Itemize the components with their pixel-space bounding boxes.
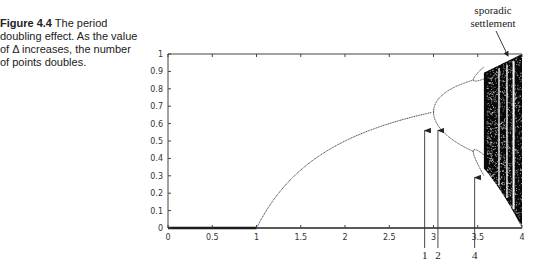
sporadic-arrow (496, 31, 508, 56)
y-tick-label: 0.1 (150, 207, 163, 216)
y-tick-label: 0.8 (150, 85, 163, 94)
period2-lower-curve (434, 112, 473, 151)
x-tick-label: 1 (254, 233, 259, 242)
arrow-2-label: 2 (435, 249, 441, 261)
period4-upper-b (473, 79, 484, 81)
x-tick-label: 1.5 (294, 233, 307, 242)
axes: 00.511.522.533.5400.10.20.30.40.50.60.70… (150, 50, 524, 242)
y-tick-label: 0.6 (150, 120, 163, 129)
y-tick-label: 0.5 (150, 137, 163, 146)
y-tick-label: 0.4 (150, 154, 163, 163)
x-tick-label: 3 (431, 233, 436, 242)
y-tick-label: 0.7 (150, 102, 163, 111)
x-tick-label: 2.5 (383, 233, 396, 242)
bifurcation-chart: 00.511.522.533.5400.10.20.30.40.50.60.70… (0, 0, 544, 269)
sporadic-label-2: settlement (470, 17, 515, 29)
period4-upper-a (473, 67, 484, 80)
x-tick-label: 0 (165, 233, 170, 242)
y-tick-label: 0.9 (150, 67, 163, 76)
plot-area (168, 54, 523, 228)
x-tick-label: 0.5 (206, 233, 219, 242)
period4-lower-b (473, 151, 484, 175)
y-tick-label: 1 (158, 50, 163, 59)
x-tick-label: 4 (519, 233, 524, 242)
arrow-1-label: 1 (422, 249, 428, 261)
arrow-4-label: 4 (472, 249, 478, 261)
x-tick-label: 2 (342, 233, 347, 242)
y-tick-label: 0 (158, 224, 163, 233)
x-tick-label: 3.5 (471, 233, 484, 242)
fixed-point-curve (257, 112, 432, 228)
sporadic-label-1: sporadic (474, 4, 511, 16)
period4-lower-a (473, 150, 484, 155)
y-tick-label: 0.3 (150, 172, 163, 181)
y-tick-label: 0.2 (150, 189, 163, 198)
period2-upper-curve (434, 80, 473, 112)
